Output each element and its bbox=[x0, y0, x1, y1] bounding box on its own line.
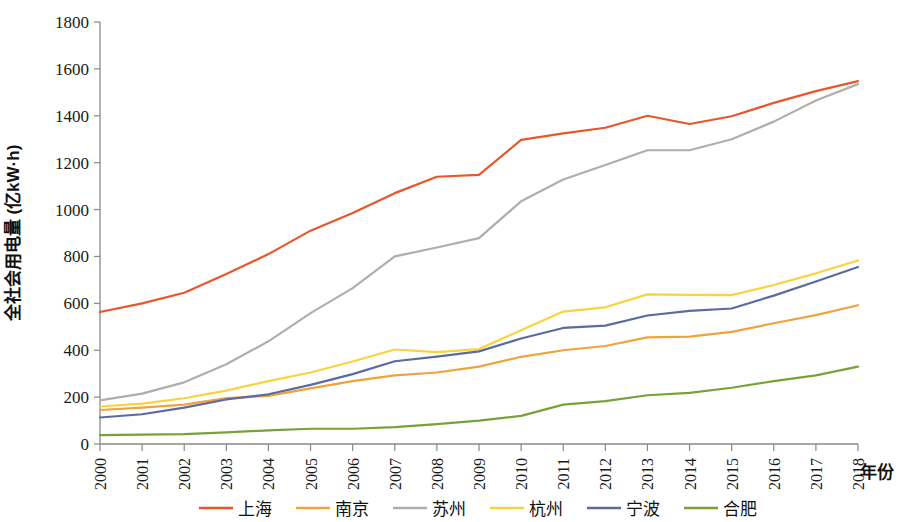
x-tick-label: 2004 bbox=[260, 458, 277, 490]
x-tick-label: 2013 bbox=[639, 458, 656, 490]
x-tick-label: 2017 bbox=[808, 458, 825, 490]
y-tick-label: 400 bbox=[64, 341, 90, 360]
y-tick-label: 200 bbox=[64, 388, 90, 407]
legend-label-苏州[interactable]: 苏州 bbox=[432, 500, 466, 519]
x-tick-label: 2009 bbox=[471, 458, 488, 490]
x-tick-label: 2000 bbox=[92, 458, 109, 490]
line-chart: 020040060080010001200140016001800 200020… bbox=[0, 0, 907, 522]
y-axis-title: 全社会用电量 (亿kW·h) bbox=[3, 145, 23, 323]
y-tick-label: 1000 bbox=[55, 201, 89, 220]
y-tick-label: 600 bbox=[64, 294, 90, 313]
legend-label-南京[interactable]: 南京 bbox=[335, 500, 369, 519]
x-tick-label: 2016 bbox=[766, 458, 783, 490]
x-tick-label: 2005 bbox=[303, 458, 320, 490]
x-tick-label: 2015 bbox=[724, 458, 741, 490]
x-tick-label: 2003 bbox=[218, 458, 235, 490]
x-tick-label: 2008 bbox=[429, 458, 446, 490]
legend-label-合肥[interactable]: 合肥 bbox=[723, 500, 757, 519]
legend-label-宁波[interactable]: 宁波 bbox=[626, 500, 660, 519]
chart-canvas: 020040060080010001200140016001800 200020… bbox=[0, 0, 907, 522]
series-line-南京 bbox=[100, 305, 858, 410]
x-tick-label: 2014 bbox=[682, 458, 699, 490]
series-lines bbox=[100, 81, 858, 435]
y-tick-label: 1600 bbox=[55, 60, 89, 79]
axis-titles: 全社会用电量 (亿kW·h)年份 bbox=[3, 145, 895, 482]
x-axis: 2000200120022003200420052006200720082009… bbox=[92, 444, 867, 490]
x-tick-label: 2011 bbox=[555, 458, 572, 489]
y-tick-label: 1400 bbox=[55, 107, 89, 126]
series-line-上海 bbox=[100, 81, 858, 312]
series-line-苏州 bbox=[100, 84, 858, 400]
y-tick-label: 800 bbox=[64, 247, 90, 266]
y-tick-label: 0 bbox=[81, 435, 90, 454]
series-line-杭州 bbox=[100, 260, 858, 406]
x-axis-title: 年份 bbox=[860, 462, 895, 482]
legend-label-杭州[interactable]: 杭州 bbox=[529, 500, 563, 519]
x-tick-label: 2007 bbox=[387, 458, 404, 490]
y-tick-label: 1200 bbox=[55, 154, 89, 173]
x-tick-label: 2002 bbox=[176, 458, 193, 490]
x-tick-label: 2001 bbox=[134, 458, 151, 490]
y-tick-label: 1800 bbox=[55, 13, 89, 32]
legend-label-上海[interactable]: 上海 bbox=[238, 500, 272, 519]
x-tick-label: 2010 bbox=[513, 458, 530, 490]
x-tick-label: 2006 bbox=[345, 458, 362, 490]
x-tick-label: 2012 bbox=[597, 458, 614, 490]
series-line-宁波 bbox=[100, 267, 858, 418]
chart-legend: 上海南京苏州杭州宁波合肥 bbox=[199, 500, 757, 519]
y-axis: 020040060080010001200140016001800 bbox=[55, 13, 100, 454]
